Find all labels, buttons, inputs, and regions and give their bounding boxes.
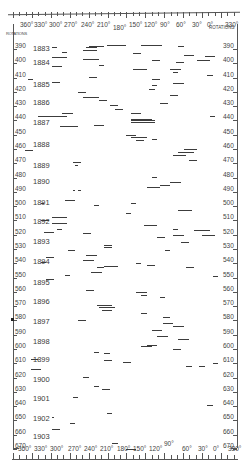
rotation-tick bbox=[13, 63, 17, 64]
data-segment bbox=[136, 140, 144, 141]
year-label: 1900 bbox=[33, 376, 50, 384]
rotation-tick bbox=[233, 278, 237, 279]
edge-marker bbox=[11, 318, 14, 321]
ruler-tick bbox=[95, 455, 96, 459]
longitude-label-top: 150° bbox=[129, 21, 142, 28]
data-segment bbox=[62, 113, 73, 114]
data-segment bbox=[31, 359, 39, 360]
data-segment bbox=[86, 255, 97, 256]
ruler-tick bbox=[108, 12, 109, 18]
rotation-tick bbox=[13, 263, 17, 264]
ruler-tick bbox=[208, 455, 209, 459]
rotation-tick-label-left: 590 bbox=[15, 328, 26, 335]
data-segment bbox=[52, 417, 55, 418]
rotation-tick-label-left: 550 bbox=[15, 271, 26, 278]
data-segment bbox=[170, 95, 178, 96]
rotation-tick bbox=[13, 149, 17, 150]
rotation-tick-label-right: 660 bbox=[223, 428, 234, 435]
longitude-label-top: 120° bbox=[144, 21, 157, 28]
data-segment bbox=[178, 339, 189, 340]
ruler-tick bbox=[133, 12, 134, 16]
rotation-tick-label-right: 520 bbox=[223, 228, 234, 235]
rotation-tick bbox=[13, 406, 17, 407]
rotation-tick-label-right: 450 bbox=[223, 128, 234, 135]
year-label: 1895 bbox=[33, 279, 50, 287]
data-segment bbox=[136, 263, 141, 264]
ruler-tick bbox=[202, 453, 203, 459]
ruler-tick bbox=[19, 12, 20, 16]
rotation-tick bbox=[233, 92, 237, 93]
data-segment bbox=[104, 266, 117, 267]
longitude-label-top: 270° bbox=[64, 21, 77, 28]
ruler-tick bbox=[183, 453, 184, 459]
data-segment bbox=[73, 190, 76, 191]
longitude-label-bottom: 330° bbox=[34, 445, 47, 452]
rotation-tick-label-left: 450 bbox=[15, 128, 26, 135]
rotations-label-left: ROTATIONS bbox=[6, 30, 27, 37]
data-segment bbox=[173, 155, 186, 156]
rotation-tick-label-right: 630 bbox=[223, 385, 234, 392]
data-segment bbox=[213, 363, 218, 364]
ruler-tick bbox=[126, 453, 127, 459]
data-segment bbox=[89, 77, 97, 78]
rotation-tick-label-left: 630 bbox=[15, 385, 26, 392]
data-segment bbox=[57, 229, 62, 230]
data-segment bbox=[75, 165, 78, 166]
data-segment bbox=[160, 297, 165, 298]
year-label: 1903 bbox=[33, 433, 50, 441]
data-segment bbox=[173, 326, 184, 327]
data-segment bbox=[197, 60, 210, 61]
rotation-tick-label-right: 470 bbox=[223, 156, 234, 163]
data-segment bbox=[131, 122, 155, 123]
longitude-label-bottom: 210° bbox=[100, 445, 113, 452]
rotation-tick bbox=[233, 320, 237, 321]
data-segment bbox=[173, 229, 178, 230]
rotation-tick bbox=[13, 120, 17, 121]
ruler-tick bbox=[139, 455, 140, 459]
ruler-tick bbox=[70, 12, 71, 18]
year-label: 1896 bbox=[33, 298, 50, 306]
ruler-tick bbox=[32, 12, 33, 18]
year-label: 1898 bbox=[33, 338, 50, 346]
rotation-tick-label-left: 600 bbox=[15, 342, 26, 349]
data-segment bbox=[123, 362, 131, 363]
longitude-label-bottom: 270° bbox=[68, 445, 81, 452]
ruler-tick bbox=[70, 453, 71, 459]
rotation-tick-label-left: 460 bbox=[15, 142, 26, 149]
ruler-tick bbox=[63, 12, 64, 16]
data-segment bbox=[186, 366, 191, 367]
rotation-tick bbox=[233, 449, 237, 450]
rotation-tick-label-right: 650 bbox=[223, 413, 234, 420]
data-segment bbox=[52, 57, 68, 58]
rotation-tick-label-right: 590 bbox=[223, 328, 234, 335]
rotation-tick bbox=[13, 178, 17, 179]
data-segment bbox=[152, 139, 157, 140]
rotation-tick-label-left: 530 bbox=[15, 242, 26, 249]
data-segment bbox=[99, 65, 104, 66]
rotation-tick bbox=[233, 235, 237, 236]
ruler-tick bbox=[221, 453, 222, 459]
ruler-tick bbox=[145, 453, 146, 459]
rotation-tick bbox=[233, 192, 237, 193]
data-segment bbox=[131, 203, 136, 204]
data-segment bbox=[173, 72, 178, 73]
ruler-tick bbox=[19, 455, 20, 459]
rotation-tick-label-right: 540 bbox=[223, 256, 234, 263]
ruler-tick bbox=[13, 453, 14, 459]
ruler-tick bbox=[152, 455, 153, 459]
data-segment bbox=[25, 150, 33, 151]
data-segment bbox=[52, 66, 63, 67]
longitude-label-top: 210° bbox=[97, 21, 110, 28]
longitude-label-bottom: 0° bbox=[213, 445, 219, 452]
data-segment bbox=[99, 307, 115, 308]
rotation-tick-label-left: 440 bbox=[15, 113, 26, 120]
data-segment bbox=[110, 105, 118, 106]
rotation-tick bbox=[13, 335, 17, 336]
rotation-tick-label-right: 610 bbox=[223, 356, 234, 363]
rotation-tick-label-right: 600 bbox=[223, 342, 234, 349]
rotation-tick-label-left: 560 bbox=[15, 285, 26, 292]
data-segment bbox=[152, 330, 163, 331]
data-segment bbox=[97, 267, 105, 268]
left-axis-line bbox=[13, 24, 14, 448]
data-segment bbox=[83, 50, 96, 51]
